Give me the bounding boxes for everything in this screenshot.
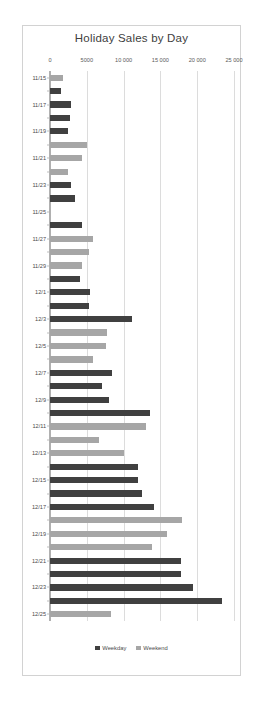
bar-weekday[interactable] — [50, 558, 181, 564]
y-tick-label: 11/17 — [32, 102, 46, 108]
chart-title: Holiday Sales by Day — [23, 32, 240, 44]
x-tick-label: 15 000 — [152, 57, 169, 63]
bar-weekday[interactable] — [50, 88, 61, 94]
y-tick-mark — [47, 198, 49, 199]
bar-weekend[interactable] — [50, 517, 182, 523]
bar-weekday[interactable] — [50, 477, 138, 483]
bar-weekday[interactable] — [50, 195, 75, 201]
y-tick-label: 12/9 — [35, 397, 46, 403]
y-tick-mark — [47, 158, 49, 159]
y-tick-mark — [47, 144, 49, 145]
y-tick-mark — [47, 225, 49, 226]
bar-weekday[interactable] — [50, 276, 80, 282]
bar-row — [50, 447, 234, 460]
bar-row — [50, 514, 234, 527]
y-tick-mark — [47, 439, 49, 440]
bar-row — [50, 527, 234, 540]
bar-weekday[interactable] — [50, 464, 138, 470]
bar-weekend[interactable] — [50, 356, 93, 362]
bar-weekday[interactable] — [50, 598, 222, 604]
y-tick-mark — [47, 547, 49, 548]
plot-area: 0500010 00015 00020 00025 000 11/1511/17… — [50, 71, 234, 621]
y-tick-mark — [47, 466, 49, 467]
bar-weekend[interactable] — [50, 450, 124, 456]
bar-weekday[interactable] — [50, 383, 102, 389]
bar-weekend[interactable] — [50, 329, 107, 335]
bar-row — [50, 541, 234, 554]
bar-weekend[interactable] — [50, 155, 82, 161]
bar-weekday[interactable] — [50, 397, 109, 403]
y-tick-mark — [47, 346, 49, 347]
y-tick-mark — [47, 117, 49, 118]
bar-row — [50, 125, 234, 138]
bar-row — [50, 608, 234, 621]
bar-row — [50, 84, 234, 97]
y-tick-mark — [47, 574, 49, 575]
bar-row — [50, 111, 234, 124]
bar-row — [50, 366, 234, 379]
bar-weekend[interactable] — [50, 169, 68, 175]
legend-item[interactable]: Weekday — [95, 645, 126, 651]
bar-weekend[interactable] — [50, 262, 82, 268]
y-tick-label: 12/25 — [32, 611, 46, 617]
bar-weekday[interactable] — [50, 410, 150, 416]
bar-weekday[interactable] — [50, 115, 70, 121]
bar-row — [50, 581, 234, 594]
bar-row — [50, 433, 234, 446]
bar-row — [50, 165, 234, 178]
bar-row — [50, 312, 234, 325]
x-tick-label: 10 000 — [115, 57, 132, 63]
bar-weekday[interactable] — [50, 370, 112, 376]
bar-row — [50, 178, 234, 191]
bar-weekend[interactable] — [50, 343, 106, 349]
y-tick-label: 11/29 — [32, 263, 46, 269]
legend-swatch-icon — [136, 646, 141, 651]
bar-weekend[interactable] — [50, 437, 99, 443]
y-tick-label: 12/23 — [32, 584, 46, 590]
bar-weekday[interactable] — [50, 128, 68, 134]
y-tick-mark — [47, 211, 49, 212]
chart-container: Holiday Sales by Day 0500010 00015 00020… — [22, 25, 241, 676]
bar-weekday[interactable] — [50, 303, 89, 309]
bar-weekday[interactable] — [50, 316, 132, 322]
x-tick-label: 5000 — [81, 57, 93, 63]
bar-row — [50, 219, 234, 232]
bar-weekday[interactable] — [50, 101, 71, 107]
y-tick-mark — [47, 359, 49, 360]
y-tick-mark — [47, 238, 49, 239]
bar-weekday[interactable] — [50, 504, 154, 510]
legend-item[interactable]: Weekend — [136, 645, 167, 651]
y-tick-mark — [47, 77, 49, 78]
bar-weekend[interactable] — [50, 611, 111, 617]
y-tick-mark — [47, 332, 49, 333]
bar-row — [50, 594, 234, 607]
bar-row — [50, 326, 234, 339]
bar-weekend[interactable] — [50, 236, 93, 242]
bar-weekday[interactable] — [50, 182, 71, 188]
y-tick-mark — [47, 131, 49, 132]
y-tick-mark — [47, 292, 49, 293]
bar-weekend[interactable] — [50, 531, 167, 537]
x-tick-label: 0 — [48, 57, 51, 63]
bar-weekday[interactable] — [50, 584, 193, 590]
bar-weekend[interactable] — [50, 544, 152, 550]
y-tick-mark — [47, 171, 49, 172]
y-tick-mark — [47, 533, 49, 534]
y-tick-mark — [47, 426, 49, 427]
bar-weekend[interactable] — [50, 75, 63, 81]
bar-weekday[interactable] — [50, 571, 181, 577]
bar-weekday[interactable] — [50, 289, 90, 295]
bar-weekend[interactable] — [50, 249, 89, 255]
bar-row — [50, 406, 234, 419]
y-tick-label: 11/27 — [32, 236, 46, 242]
y-tick-mark — [47, 265, 49, 266]
bar-row — [50, 487, 234, 500]
bar-weekend[interactable] — [50, 142, 87, 148]
bar-weekday[interactable] — [50, 222, 82, 228]
bar-weekday[interactable] — [50, 490, 142, 496]
x-tick-label: 25 000 — [225, 57, 242, 63]
bar-weekend[interactable] — [50, 423, 146, 429]
bar-row — [50, 71, 234, 84]
y-tick-mark — [47, 493, 49, 494]
y-tick-mark — [47, 319, 49, 320]
